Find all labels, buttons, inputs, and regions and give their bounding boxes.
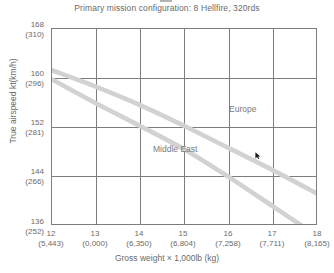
plot-area: Europe Middle East [51,28,317,225]
x-tick-value: 18 [291,229,334,239]
data-curves [52,29,317,225]
y-tick-value: 168 [0,20,44,30]
y-tick-160: 160 (296) [0,69,44,88]
curve-europe [52,70,317,194]
y-tick-secondary: (296) [0,79,44,89]
y-tick-secondary: (281) [0,128,44,138]
chart-figure: Primary mission configuration: 8 Hellfir… [0,0,334,273]
scan-artifact-mark [160,0,172,2]
x-tick-18: 18 (8,165) [291,229,334,249]
y-tick-152: 152 (281) [0,118,44,137]
y-tick-secondary: (310) [0,30,44,40]
series-label-europe: Europe [229,104,256,114]
y-tick-secondary: (266) [0,177,44,187]
x-tick-secondary: (8,165) [291,239,334,249]
chart-title: Primary mission configuration: 8 Hellfir… [0,3,334,13]
y-axis-title: True airspeed kt(km/h) [8,36,18,166]
mouse-pointer-icon [255,152,261,159]
y-tick-value: 152 [0,118,44,128]
series-label-middle-east: Middle East [153,144,197,154]
y-tick-value: 160 [0,69,44,79]
y-tick-value: 144 [0,167,44,177]
y-tick-value: 136 [0,217,44,227]
x-axis-title: Gross weight × 1,000lb (kg) [0,253,334,263]
y-tick-168: 168 (310) [0,20,44,39]
y-tick-144: 144 (266) [0,167,44,186]
